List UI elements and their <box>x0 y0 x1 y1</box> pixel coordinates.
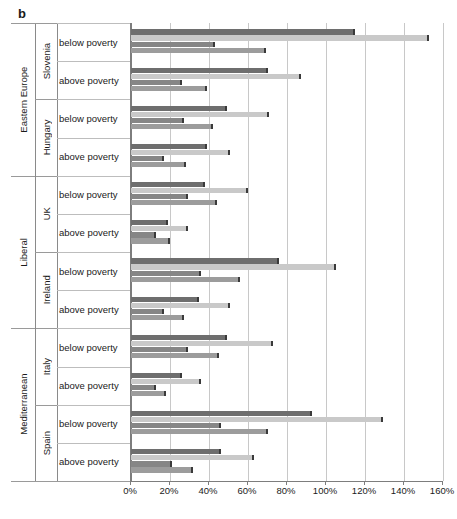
bar <box>131 467 193 472</box>
bar <box>131 194 188 199</box>
bar-end-cap <box>215 200 217 205</box>
poverty-separator <box>57 176 130 177</box>
bar <box>131 35 429 40</box>
regime-label: Eastern Europe <box>11 23 35 176</box>
bar <box>131 461 172 466</box>
poverty-label-above: above poverty <box>59 290 129 328</box>
poverty-label-below: below poverty <box>59 99 129 137</box>
bar-end-cap <box>353 29 355 34</box>
poverty-separator <box>57 367 130 368</box>
x-tick-label: 60% <box>237 485 256 496</box>
bar <box>131 29 355 34</box>
country-separator <box>35 481 130 482</box>
bar-end-cap <box>334 264 336 269</box>
x-tick-label: 0% <box>123 485 137 496</box>
country-group-uk: UK <box>35 176 58 252</box>
chart-root: Eastern EuropeSloveniabelow povertyabove… <box>0 0 457 519</box>
regime-label: Liberal <box>11 176 35 329</box>
bar <box>131 232 156 237</box>
gridline <box>404 23 405 481</box>
bar-end-cap <box>271 341 273 346</box>
country-group-spain: Spain <box>35 405 58 481</box>
bar-end-cap <box>267 112 269 117</box>
poverty-label-below: below poverty <box>59 23 129 61</box>
poverty-label-below: below poverty <box>59 176 129 214</box>
country-label: Italy <box>35 328 57 404</box>
poverty-label-below: below poverty <box>59 328 129 366</box>
poverty-label-below: below poverty <box>59 405 129 443</box>
poverty-separator <box>57 99 130 100</box>
bar-end-cap <box>197 297 199 302</box>
bar-end-cap <box>182 118 184 123</box>
bar-end-cap <box>199 379 201 384</box>
bar-end-cap <box>211 124 213 129</box>
poverty-label-below: below poverty <box>59 252 129 290</box>
gridline <box>326 23 327 481</box>
bar <box>131 188 248 193</box>
bar <box>131 353 219 358</box>
plot-area <box>130 23 443 482</box>
bar <box>131 417 383 422</box>
bar <box>131 162 186 167</box>
bar-end-cap <box>246 188 248 193</box>
bar <box>131 156 164 161</box>
bar <box>131 200 217 205</box>
country-group-slovenia: Slovenia <box>35 23 58 99</box>
x-tick-label: 20% <box>159 485 178 496</box>
poverty-separator <box>57 214 130 215</box>
bar-end-cap <box>186 347 188 352</box>
x-axis: 0%20%40%60%80%100%120%140%160% <box>130 481 442 501</box>
gridline <box>443 23 444 481</box>
bar <box>131 86 207 91</box>
bar-end-cap <box>299 74 301 79</box>
bar <box>131 74 301 79</box>
bar-end-cap <box>191 467 193 472</box>
bar-end-cap <box>264 48 266 53</box>
bar-end-cap <box>186 194 188 199</box>
bar-end-cap <box>225 106 227 111</box>
bar-end-cap <box>225 335 227 340</box>
country-group-hungary: Hungary <box>35 99 58 175</box>
country-label: Hungary <box>35 99 57 175</box>
bar <box>131 80 182 85</box>
poverty-separator <box>57 443 130 444</box>
bar-end-cap <box>154 385 156 390</box>
bar <box>131 303 230 308</box>
country-label: Slovenia <box>35 23 57 99</box>
bar-end-cap <box>238 277 240 282</box>
country-label: Ireland <box>35 252 57 328</box>
poverty-separator <box>57 290 130 291</box>
bar-end-cap <box>154 232 156 237</box>
bar-end-cap <box>184 162 186 167</box>
bar-end-cap <box>166 220 168 225</box>
poverty-label-above: above poverty <box>59 138 129 176</box>
bar <box>131 238 170 243</box>
bar <box>131 385 156 390</box>
bar <box>131 258 279 263</box>
bar <box>131 48 266 53</box>
bar-end-cap <box>219 449 221 454</box>
bar <box>131 411 312 416</box>
bar-end-cap <box>170 461 172 466</box>
bar <box>131 309 164 314</box>
bar-end-cap <box>182 315 184 320</box>
bar-end-cap <box>180 80 182 85</box>
bar-end-cap <box>228 303 230 308</box>
poverty-label-above: above poverty <box>59 61 129 99</box>
bar-end-cap <box>205 86 207 91</box>
bar <box>131 271 201 276</box>
bar <box>131 373 182 378</box>
bar-end-cap <box>228 150 230 155</box>
bar <box>131 220 168 225</box>
bar-end-cap <box>199 271 201 276</box>
bar-end-cap <box>164 391 166 396</box>
regime-group-liberal: Liberal <box>11 176 36 329</box>
bar-end-cap <box>203 182 205 187</box>
poverty-separator <box>57 138 130 139</box>
bar-end-cap <box>277 258 279 263</box>
bar-end-cap <box>252 455 254 460</box>
bar <box>131 264 336 269</box>
bar <box>131 106 227 111</box>
poverty-label-above: above poverty <box>59 443 129 481</box>
poverty-separator <box>57 252 130 253</box>
